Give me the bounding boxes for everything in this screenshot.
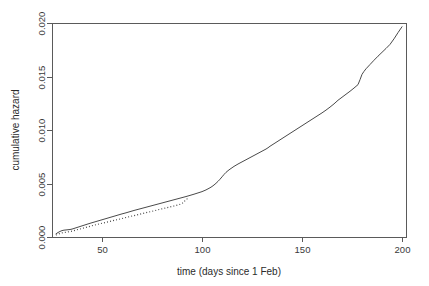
plot-box-border: [53, 24, 407, 238]
hazard-curve-solid: [56, 27, 402, 234]
x-axis-ticks: 50100150200: [97, 237, 410, 255]
hazard-curve-dotted: [56, 198, 188, 235]
chart-container: 50100150200 0.0000.0050.0100.0150.020 ti…: [0, 0, 429, 286]
y-tick-label: 0.010: [36, 119, 47, 143]
y-axis-title: cumulative hazard: [10, 89, 21, 170]
x-tick-label: 150: [295, 244, 311, 255]
y-axis-ticks: 0.0000.0050.0100.0150.020: [36, 12, 52, 250]
data-series-group: [56, 27, 402, 235]
x-axis-title: time (days since 1 Feb): [177, 266, 281, 277]
x-tick-label: 50: [97, 244, 108, 255]
cumulative-hazard-chart: 50100150200 0.0000.0050.0100.0150.020 ti…: [0, 0, 429, 286]
y-tick-label: 0.000: [36, 226, 47, 250]
x-tick-label: 200: [395, 244, 411, 255]
plot-frame: [53, 24, 407, 238]
x-tick-label: 100: [195, 244, 211, 255]
y-tick-label: 0.015: [36, 66, 47, 90]
y-tick-label: 0.005: [36, 173, 47, 197]
y-tick-label: 0.020: [36, 12, 47, 36]
